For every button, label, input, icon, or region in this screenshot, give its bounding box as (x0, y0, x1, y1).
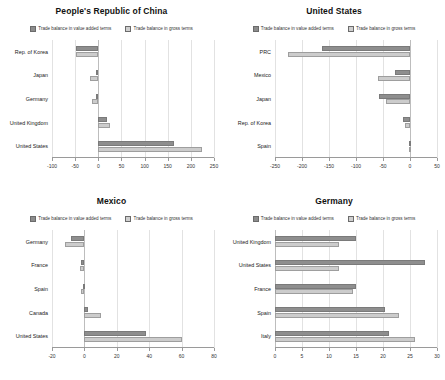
x-tick-label: -50 (379, 163, 386, 169)
bar-value-added (98, 141, 173, 146)
axis-tick (117, 348, 118, 351)
legend-item-value-added: Trade balance in value added terms (30, 216, 111, 222)
x-tick-label: 25 (407, 353, 413, 359)
gridline (383, 40, 384, 158)
x-tick-label: 250 (210, 163, 218, 169)
bar-gross (84, 337, 181, 342)
x-tick-label: 20 (380, 353, 386, 359)
axis-tick (52, 348, 53, 351)
panel-usa: United States Trade balance in value add… (223, 0, 445, 190)
gridline (191, 40, 192, 158)
bar-value-added (275, 307, 385, 312)
legend-swatch-gross-icon (125, 26, 131, 32)
legend-swatch-gross-icon (348, 216, 354, 222)
bar-gross (275, 242, 339, 247)
legend-label-value-added: Trade balance in value added terms (38, 217, 111, 222)
bar-value-added (275, 236, 356, 241)
bar-gross (386, 99, 410, 104)
legend-germany: Trade balance in value added terms Trade… (223, 216, 445, 222)
bar-value-added (81, 260, 84, 265)
axis-tick (302, 158, 303, 161)
y-category-label: United States (225, 262, 271, 268)
bar-gross (84, 313, 100, 318)
legend-item-value-added: Trade balance in value added terms (253, 216, 334, 222)
axis-tick (437, 158, 438, 161)
legend-label-gross: Trade balance in gross terms (134, 217, 193, 222)
y-category-label: United Kingdom (225, 239, 271, 245)
legend-label-value-added: Trade balance in value added terms (261, 217, 334, 222)
bar-gross (90, 76, 98, 81)
chart-grid: People's Republic of China Trade balance… (0, 0, 445, 380)
y-category-label: Japan (2, 72, 48, 78)
x-tick-label: -250 (270, 163, 280, 169)
x-tick-label: 100 (140, 163, 148, 169)
legend-swatch-value-added-icon (253, 216, 259, 222)
x-tick-label: 200 (187, 163, 195, 169)
legend-swatch-value-added-icon (253, 26, 259, 32)
axis-tick (329, 158, 330, 161)
axis-tick (98, 158, 99, 161)
gridline (52, 230, 53, 348)
legend-label-gross: Trade balance in gross terms (356, 217, 415, 222)
gridline (275, 40, 276, 158)
chart-title-usa: United States (223, 6, 445, 16)
x-tick-label: 80 (211, 353, 217, 359)
chart-title-germany: Germany (223, 196, 445, 206)
axis-tick (214, 158, 215, 161)
axis-tick (356, 158, 357, 161)
bar-gross (80, 266, 85, 271)
gridline (329, 40, 330, 158)
x-tick-label: 30 (434, 353, 440, 359)
axis-tick (75, 158, 76, 161)
axis-tick (410, 348, 411, 351)
plot-usa: -250-200-150-100-50050PRCMexicoJapanRep.… (275, 40, 437, 158)
x-tick-label: 40 (146, 353, 152, 359)
axis-tick (52, 158, 53, 161)
x-tick-label: -150 (324, 163, 334, 169)
legend-swatch-value-added-icon (30, 26, 36, 32)
x-tick-label: 15 (353, 353, 359, 359)
bar-value-added (98, 117, 107, 122)
bar-gross (275, 337, 415, 342)
x-tick-label: 60 (179, 353, 185, 359)
gridline (75, 40, 76, 158)
bar-value-added (71, 236, 84, 241)
plot-area: -100-50050100150200250Rep. of KoreaJapan… (52, 40, 214, 158)
x-axis-line (275, 157, 437, 158)
axis-tick (121, 158, 122, 161)
legend-item-value-added: Trade balance in value added terms (30, 26, 111, 32)
legend-swatch-gross-icon (125, 216, 131, 222)
bar-gross (98, 123, 110, 128)
bar-gross (98, 147, 202, 152)
y-category-label: United States (2, 333, 48, 339)
bar-gross (81, 289, 84, 294)
legend-item-gross: Trade balance in gross terms (125, 216, 193, 222)
bar-value-added (96, 94, 98, 99)
axis-tick (275, 348, 276, 351)
legend-label-value-added: Trade balance in value added terms (38, 27, 111, 32)
gridline (214, 230, 215, 348)
gridline (437, 230, 438, 348)
x-tick-label: -100 (47, 163, 57, 169)
gridline (356, 40, 357, 158)
bar-gross (275, 313, 399, 318)
legend-label-gross: Trade balance in gross terms (356, 27, 415, 32)
x-tick-label: 50 (119, 163, 125, 169)
bar-value-added (275, 260, 425, 265)
bar-value-added (379, 94, 410, 99)
legend-item-gross: Trade balance in gross terms (348, 216, 416, 222)
panel-germany: Germany Trade balance in value added ter… (223, 190, 445, 380)
gridline (302, 40, 303, 158)
bar-value-added (275, 284, 356, 289)
axis-tick (437, 348, 438, 351)
axis-tick (410, 158, 411, 161)
gridline (182, 230, 183, 348)
bar-value-added (403, 117, 410, 122)
x-tick-label: 150 (164, 163, 172, 169)
bar-value-added (83, 284, 85, 289)
axis-tick (329, 348, 330, 351)
x-tick-label: -200 (297, 163, 307, 169)
x-tick-label: 50 (434, 163, 440, 169)
bar-value-added (395, 70, 410, 75)
axis-tick (182, 348, 183, 351)
